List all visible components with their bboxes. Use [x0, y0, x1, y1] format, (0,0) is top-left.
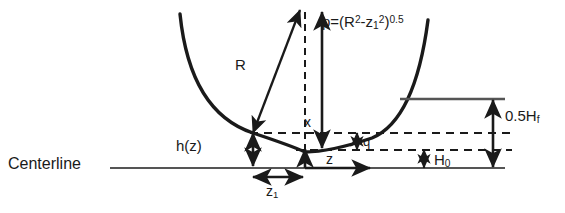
z-coordinate-label: z [326, 152, 333, 166]
diagram-vector-graphics [0, 0, 565, 213]
x-coordinate-label: x [304, 115, 311, 129]
z1-coordinate-label: z1 [266, 184, 278, 200]
Hf-subscript: f [537, 114, 540, 125]
diagram-canvas: Centerline p=(R2-z12)0.5 R h(z) x z z1 q… [0, 0, 565, 213]
half-Hf-label: 0.5Hf [505, 108, 540, 125]
radius-arrow [253, 10, 300, 133]
H0-base: H [434, 151, 445, 168]
z1-subscript: 1 [273, 189, 278, 200]
H0-subscript: 0 [445, 158, 451, 169]
formula-lhs: p=(R [322, 13, 355, 30]
free-surface-arc [180, 14, 428, 152]
H0-label: H0 [434, 152, 451, 169]
formula-mid: -z [361, 13, 374, 30]
z1-base: z [266, 183, 273, 199]
formula-exponent: 0.5 [389, 14, 403, 25]
depth-function-label: h(z) [176, 138, 202, 153]
Hf-base: 0.5H [505, 107, 537, 124]
pressure-formula-label: p=(R2-z12)0.5 [322, 14, 404, 31]
radius-label: R [235, 57, 246, 72]
centerline-label: Centerline [8, 156, 81, 172]
q-gap-label: q [363, 135, 370, 148]
